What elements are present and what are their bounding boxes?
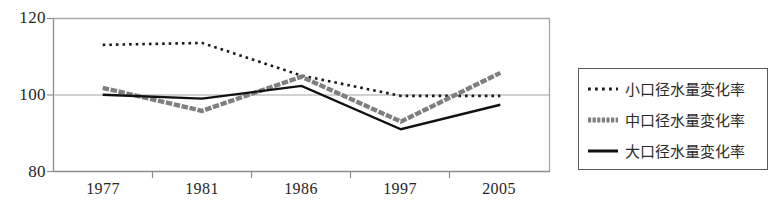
series-line-3 xyxy=(103,86,501,129)
x-axis-ticks xyxy=(153,172,450,178)
dotted-line-marker xyxy=(586,82,620,96)
legend-label-medium-diameter: 中口径水量変化率 xyxy=(625,109,745,130)
legend-label-small-diameter: 小口径水量変化率 xyxy=(625,78,745,99)
y-axis-ticks xyxy=(47,19,53,172)
legend-label-large-diameter: 大口径水量変化率 xyxy=(625,140,745,161)
line-chart-figure: 120 100 80 1977 1981 1986 1997 2005 xyxy=(0,0,779,220)
legend-item-medium-diameter: 中口径水量変化率 xyxy=(579,104,767,135)
series-line-1 xyxy=(103,43,501,96)
thick-gray-dashed-line-marker xyxy=(586,113,620,127)
chart-legend: 小口径水量変化率 中口径水量変化率 大口径水量変化率 xyxy=(578,68,768,170)
legend-item-small-diameter: 小口径水量変化率 xyxy=(579,73,767,104)
solid-black-line-marker xyxy=(586,144,620,158)
legend-item-large-diameter: 大口径水量変化率 xyxy=(579,135,767,166)
